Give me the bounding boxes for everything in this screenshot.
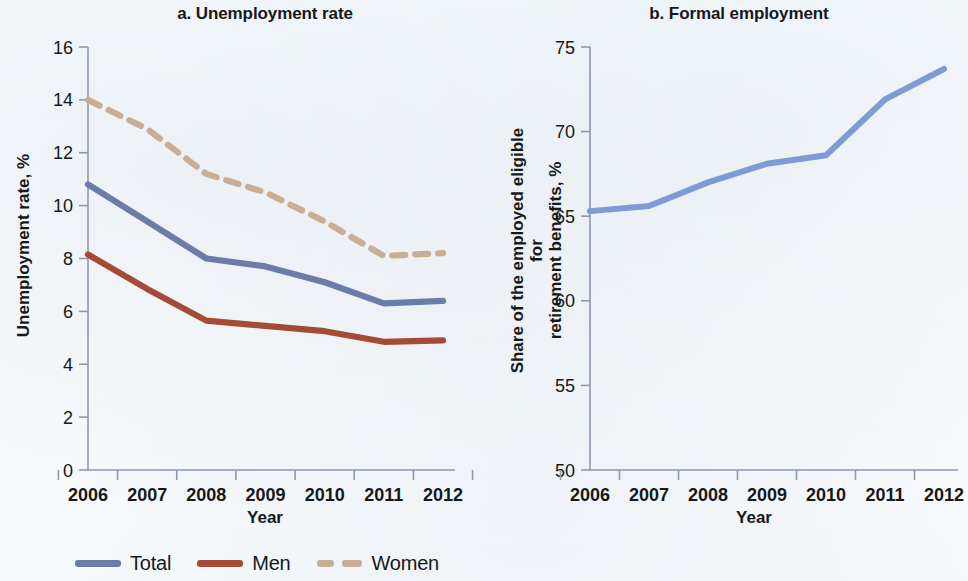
- legend-label-men: Men: [252, 552, 290, 575]
- svg-text:70: 70: [555, 122, 575, 142]
- svg-text:2012: 2012: [423, 485, 463, 505]
- svg-text:2011: 2011: [865, 485, 904, 505]
- svg-text:8: 8: [63, 249, 73, 269]
- svg-text:2006: 2006: [68, 485, 108, 505]
- legend-label-total: Total: [130, 552, 171, 575]
- panel-b-plot-area: 5055606570752006200720082009201020112012: [484, 0, 968, 540]
- legend-label-women: Women: [372, 552, 440, 575]
- legend-swatch-women: [317, 560, 363, 567]
- legend-swatch-total: [75, 560, 121, 567]
- svg-text:55: 55: [555, 376, 575, 396]
- svg-text:2008: 2008: [688, 485, 728, 505]
- svg-text:50: 50: [555, 461, 575, 481]
- legend-item-men[interactable]: Men: [197, 552, 290, 575]
- panel-formal-employment: b. Formal employment Share of the employ…: [484, 0, 968, 540]
- svg-text:65: 65: [555, 207, 575, 227]
- svg-text:2009: 2009: [747, 485, 787, 505]
- svg-text:60: 60: [555, 291, 575, 311]
- svg-text:6: 6: [63, 302, 73, 322]
- svg-text:2: 2: [63, 408, 73, 428]
- svg-text:2010: 2010: [305, 485, 345, 505]
- svg-text:2009: 2009: [245, 485, 285, 505]
- svg-text:4: 4: [63, 355, 73, 375]
- legend-swatch-men: [197, 560, 243, 567]
- svg-text:0: 0: [63, 461, 73, 481]
- panel-a-x-axis-label: Year: [0, 508, 484, 528]
- svg-text:2007: 2007: [629, 485, 669, 505]
- svg-text:16: 16: [53, 38, 73, 58]
- svg-text:12: 12: [53, 143, 73, 163]
- panel-b-x-axis-label: Year: [484, 508, 968, 528]
- svg-text:2006: 2006: [570, 485, 610, 505]
- legend-item-women[interactable]: Women: [317, 552, 440, 575]
- panel-a-plot-area: 0246810121416200620072008200920102011201…: [0, 0, 484, 540]
- svg-text:2011: 2011: [364, 485, 403, 505]
- figure-two-panel-line-charts: a. Unemployment rate Unemployment rate, …: [0, 0, 968, 581]
- svg-text:10: 10: [53, 196, 73, 216]
- panel-unemployment-rate: a. Unemployment rate Unemployment rate, …: [0, 0, 484, 540]
- svg-text:2012: 2012: [924, 485, 964, 505]
- svg-text:14: 14: [53, 90, 73, 110]
- svg-text:75: 75: [555, 38, 575, 58]
- legend-item-total[interactable]: Total: [75, 552, 171, 575]
- legend: TotalMenWomen: [0, 545, 484, 581]
- svg-text:2010: 2010: [806, 485, 846, 505]
- svg-text:2008: 2008: [186, 485, 226, 505]
- svg-text:2007: 2007: [127, 485, 167, 505]
